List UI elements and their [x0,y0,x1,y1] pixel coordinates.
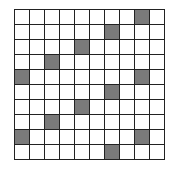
grid-cell [105,100,120,115]
grid-cell [90,85,105,100]
grid-cell [60,25,75,40]
grid-cell [150,145,165,160]
grid-cell [135,115,150,130]
grid-cell [60,55,75,70]
grid-cell [75,55,90,70]
grid-cell-shaded [105,25,120,40]
grid-cell-shaded [45,55,60,70]
grid-cell [30,85,45,100]
grid-cell [45,145,60,160]
grid-cell [45,70,60,85]
grid-cell [75,115,90,130]
grid-cell [30,115,45,130]
grid-cell [30,70,45,85]
grid-cell [30,10,45,25]
grid-cell [60,40,75,55]
grid-cell-shaded [15,70,30,85]
grid-cell-shaded [135,130,150,145]
grid-cell [90,55,105,70]
grid-cell [120,145,135,160]
grid-cell [120,25,135,40]
grid-cell [120,100,135,115]
grid-cell [120,85,135,100]
grid-cell [150,85,165,100]
grid-cell [150,40,165,55]
grid-cell [60,100,75,115]
grid-cell [15,55,30,70]
grid-cell [135,100,150,115]
grid-cell [120,55,135,70]
grid-cell [150,55,165,70]
grid-cell [30,55,45,70]
grid-cell [75,70,90,85]
grid-cell [30,100,45,115]
grid-cell [135,145,150,160]
grid-cell [75,130,90,145]
grid-cell-shaded [15,130,30,145]
grid-cell [60,85,75,100]
grid-cell [15,25,30,40]
grid-cell [75,145,90,160]
grid-cell [120,115,135,130]
grid-cell [60,115,75,130]
grid-cell [75,10,90,25]
grid-cell [60,70,75,85]
grid-cell [45,10,60,25]
grid-cell [90,145,105,160]
grid-cell [135,25,150,40]
grid-cell [150,115,165,130]
grid-cell [30,130,45,145]
grid-cell [15,10,30,25]
grid-cell [90,130,105,145]
grid-cell [150,130,165,145]
grid-cell [135,85,150,100]
grid-cell [105,70,120,85]
grid-cell [120,70,135,85]
grid-cell [15,40,30,55]
grid-cell [60,10,75,25]
grid-cell [120,130,135,145]
grid-cell [75,85,90,100]
grid-cell [105,55,120,70]
grid-cell [45,100,60,115]
grid-cell [150,25,165,40]
grid-cell-shaded [75,40,90,55]
grid-cell-shaded [105,145,120,160]
grid-cell [15,85,30,100]
grid-cell [105,115,120,130]
grid-cell [15,145,30,160]
grid-cell [75,25,90,40]
grid-cell-shaded [135,70,150,85]
grid-cell-shaded [105,85,120,100]
grid-cell [45,40,60,55]
grid-cell [90,70,105,85]
shaded-grid-diagram [14,9,165,160]
grid-cell [90,40,105,55]
grid-cell [45,25,60,40]
grid-cell [105,10,120,25]
grid-cell [105,130,120,145]
grid-cell [30,25,45,40]
grid-cell [105,40,120,55]
grid-cell-shaded [135,10,150,25]
grid-cell [150,100,165,115]
grid-cell [60,130,75,145]
grid-cell [15,100,30,115]
grid-cell [150,10,165,25]
grid-cell [90,100,105,115]
grid-cell [30,40,45,55]
grid-cell-shaded [45,115,60,130]
grid-cell [90,10,105,25]
grid-cell [120,10,135,25]
grid-cell [45,130,60,145]
grid-cell [60,145,75,160]
grid-cell [90,115,105,130]
grid-cell [150,70,165,85]
grid-cell-shaded [75,100,90,115]
grid-cell [135,40,150,55]
grid-cell [120,40,135,55]
grid-cell [15,115,30,130]
grid-cell [90,25,105,40]
grid-cell [45,85,60,100]
grid-cell [30,145,45,160]
